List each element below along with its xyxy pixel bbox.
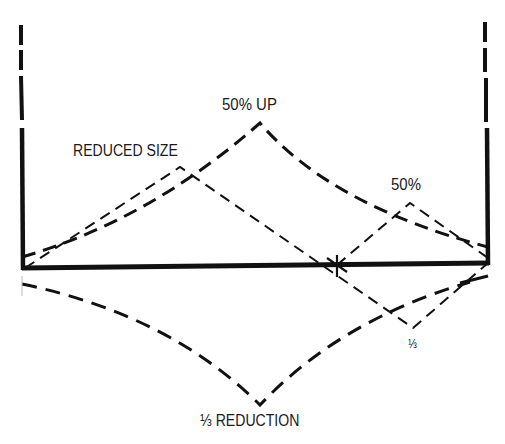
label-50-percent: 50% xyxy=(391,175,421,195)
line-50-percent xyxy=(337,203,488,265)
right-stub xyxy=(460,276,488,283)
left-wall xyxy=(21,25,23,270)
label-reduced-size: REDUCED SIZE xyxy=(73,142,178,160)
baseline-beam xyxy=(22,263,489,268)
label-one-third: ⅓ xyxy=(408,337,417,351)
label-one-third-reduction: ⅓ REDUCTION xyxy=(200,412,299,430)
beam-deflection-diagram xyxy=(0,0,505,444)
label-50-percent-up: 50% UP xyxy=(222,95,277,115)
right-wall xyxy=(485,22,488,265)
curve-third-reduction xyxy=(22,282,470,405)
